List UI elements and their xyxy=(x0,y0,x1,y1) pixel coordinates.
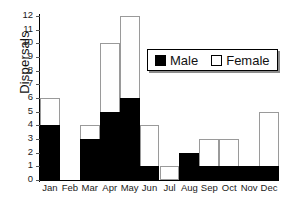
y-tick-label: 8 xyxy=(28,64,33,75)
bar-segment-male xyxy=(259,166,279,180)
legend-swatch-male-icon xyxy=(155,55,166,66)
y-tick-label: 11 xyxy=(23,23,33,34)
y-tick-label: 7 xyxy=(28,77,33,88)
bar-segment-male xyxy=(219,166,239,180)
y-tick-label: 10 xyxy=(22,36,33,47)
plot-area: 0123456789101112 xyxy=(40,16,279,180)
bar-group xyxy=(120,16,140,180)
x-tick-label: Apr xyxy=(100,182,120,193)
dispersals-bar-chart: Dispersals 0123456789101112 JanFebMarApr… xyxy=(0,0,287,209)
bar-segment-male xyxy=(239,166,259,180)
x-tick-label: Jul xyxy=(160,182,180,193)
bar-segment-male xyxy=(120,98,140,180)
y-tick-label: 9 xyxy=(28,50,33,61)
bar-segment-male xyxy=(40,125,60,180)
x-tick-label: Jun xyxy=(140,182,160,193)
legend-swatch-female-icon xyxy=(211,55,222,66)
bar-group xyxy=(239,16,259,180)
y-tick-label: 5 xyxy=(28,105,33,116)
bar-segment-male xyxy=(199,166,219,180)
y-tick-label: 1 xyxy=(28,159,33,170)
x-tick-label: May xyxy=(120,182,140,193)
x-tick-label: Feb xyxy=(60,182,80,193)
y-tick-label: 6 xyxy=(28,91,33,102)
legend-item: Male xyxy=(155,53,198,68)
bar-group xyxy=(179,16,199,180)
x-tick-label: Jan xyxy=(40,182,60,193)
bar-group xyxy=(60,16,80,180)
y-tick-label: 3 xyxy=(28,132,33,143)
y-tick-label: 4 xyxy=(28,118,33,129)
bar-group xyxy=(219,16,239,180)
x-tick-label: Sep xyxy=(199,182,219,193)
y-tick-mark xyxy=(36,180,40,181)
x-tick-label: Oct xyxy=(219,182,239,193)
bar-segment-female xyxy=(160,166,180,180)
bar-group xyxy=(199,16,219,180)
x-tick-label: Mar xyxy=(80,182,100,193)
bar-group xyxy=(80,16,100,180)
x-tick-label: Nov xyxy=(239,182,259,193)
legend-label: Male xyxy=(170,53,198,68)
bar-segment-male xyxy=(100,112,120,180)
legend-label: Female xyxy=(226,53,269,68)
bar-group xyxy=(259,16,279,180)
bar-segment-male xyxy=(80,139,100,180)
bar-group xyxy=(40,16,60,180)
bar-segment-male xyxy=(140,166,160,180)
bar-group xyxy=(100,16,120,180)
x-tick-label: Dec xyxy=(259,182,279,193)
chart-legend: MaleFemale xyxy=(147,49,278,71)
bar-group xyxy=(140,16,160,180)
bar-group xyxy=(160,16,180,180)
bar-segment-male xyxy=(179,153,199,180)
y-tick-label: 12 xyxy=(22,9,33,20)
legend-item: Female xyxy=(211,53,269,68)
x-tick-label: Aug xyxy=(179,182,199,193)
y-tick-label: 0 xyxy=(28,173,33,184)
y-tick-label: 2 xyxy=(28,146,33,157)
